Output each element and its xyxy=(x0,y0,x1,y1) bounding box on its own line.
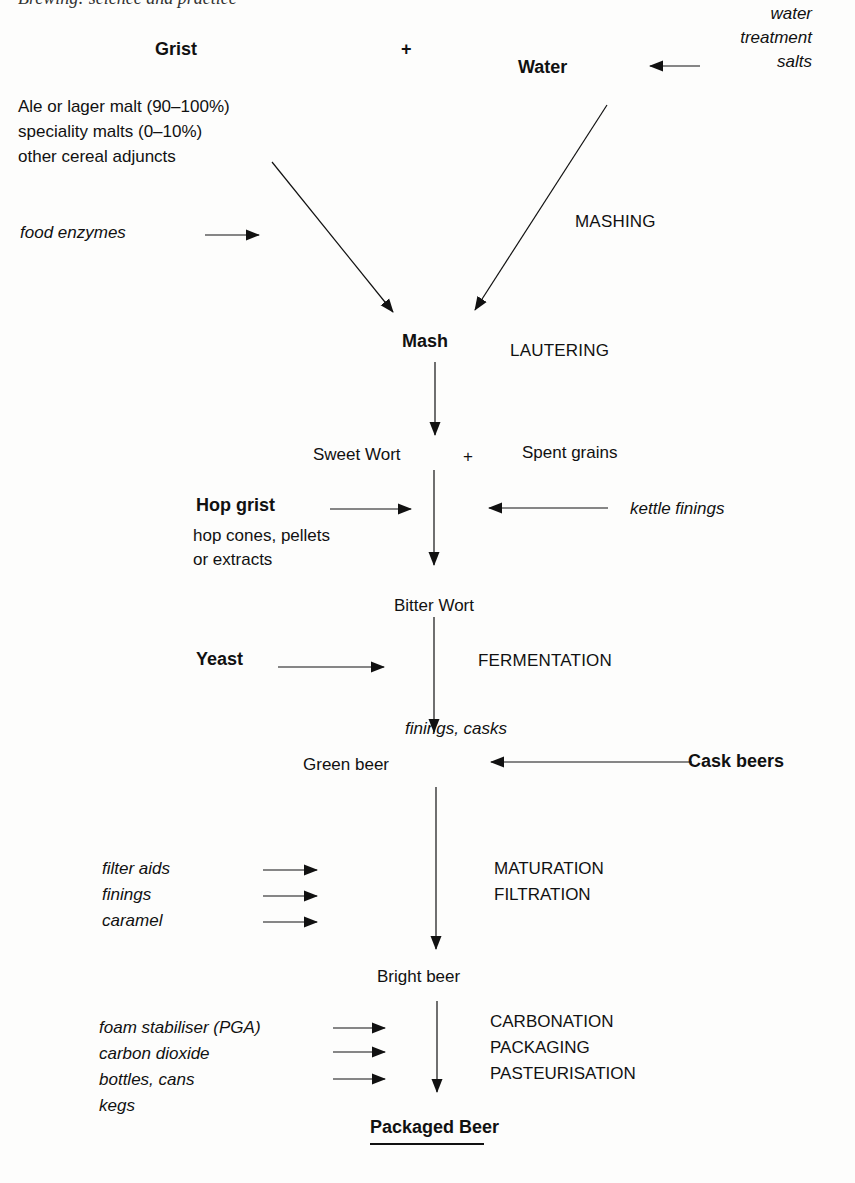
mash-node: Mash xyxy=(402,332,448,350)
maturation-step: MATURATION xyxy=(494,856,604,882)
hop-grist-forms: hop cones, pellets or extracts xyxy=(193,524,330,572)
grist-title: Grist xyxy=(155,40,197,58)
hop-grist-line-2: or extracts xyxy=(193,548,330,572)
addition-carbon-dioxide: carbon dioxide xyxy=(99,1041,261,1067)
hop-grist-title: Hop grist xyxy=(196,496,275,514)
green-beer-node: Green beer xyxy=(303,756,389,773)
grist-composition: Ale or lager malt (90–100%) speciality m… xyxy=(18,94,230,169)
spent-grains-node: Spent grains xyxy=(522,444,617,461)
carbonation-step: CARBONATION xyxy=(490,1009,636,1035)
addition-kegs: kegs xyxy=(99,1093,261,1119)
maturation-additions: filter aids finings caramel xyxy=(102,856,170,934)
addition-foam-stabiliser: foam stabiliser (PGA) xyxy=(99,1015,261,1041)
grist-line-malt: Ale or lager malt (90–100%) xyxy=(18,94,230,119)
yeast-label: Yeast xyxy=(196,650,243,668)
sweet-wort-node: Sweet Wort xyxy=(313,446,401,463)
grist-line-speciality: speciality malts (0–10%) xyxy=(18,119,230,144)
addition-filter-aids: filter aids xyxy=(102,856,170,882)
kettle-finings-label: kettle finings xyxy=(630,500,725,517)
water-title: Water xyxy=(518,58,567,76)
plus-sign: + xyxy=(401,40,412,58)
packaging-steps: CARBONATION PACKAGING PASTEURISATION xyxy=(490,1009,636,1087)
food-enzymes-label: food enzymes xyxy=(20,224,126,241)
addition-finings: finings xyxy=(102,882,170,908)
plus-sign-2: + xyxy=(463,448,473,465)
mashing-step: MASHING xyxy=(575,213,656,230)
filtration-step: FILTRATION xyxy=(494,882,604,908)
arrow-grist-to-mash xyxy=(272,162,393,312)
packaged-beer-node: Packaged Beer xyxy=(370,1118,499,1136)
water-treatment-line-2: treatment xyxy=(700,26,812,50)
maturation-steps: MATURATION FILTRATION xyxy=(494,856,604,908)
bright-beer-node: Bright beer xyxy=(377,968,460,985)
water-treatment-line-3: salts xyxy=(700,50,812,74)
packaging-additions: foam stabiliser (PGA) carbon dioxide bot… xyxy=(99,1015,261,1119)
packaged-beer-underline xyxy=(370,1143,484,1145)
pasteurisation-step: PASTEURISATION xyxy=(490,1061,636,1087)
hop-grist-line-1: hop cones, pellets xyxy=(193,524,330,548)
bitter-wort-node: Bitter Wort xyxy=(394,597,474,614)
arrow-water-to-mash xyxy=(475,105,607,310)
addition-caramel: caramel xyxy=(102,908,170,934)
flow-arrows xyxy=(0,0,855,1183)
lautering-step: LAUTERING xyxy=(510,342,609,359)
finings-casks-label: finings, casks xyxy=(405,720,507,737)
addition-bottles-cans: bottles, cans xyxy=(99,1067,261,1093)
grist-line-adjuncts: other cereal adjuncts xyxy=(18,144,230,169)
water-treatment-salts: water treatment salts xyxy=(700,2,812,74)
fermentation-step: FERMENTATION xyxy=(478,652,612,669)
cask-beers-label: Cask beers xyxy=(688,752,784,770)
water-treatment-line-1: water xyxy=(700,2,812,26)
packaging-step: PACKAGING xyxy=(490,1035,636,1061)
